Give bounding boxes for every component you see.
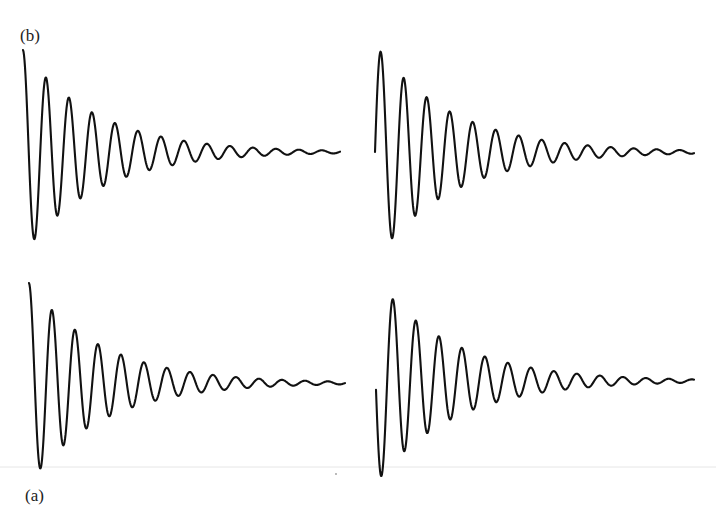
waveform-top-right bbox=[375, 52, 694, 239]
waveform-canvas bbox=[0, 0, 716, 525]
panel-label-a: (a) bbox=[25, 487, 44, 504]
waveform-bottom-right bbox=[376, 299, 694, 476]
waveform-top-left bbox=[23, 50, 340, 239]
waveform-bottom-left bbox=[29, 283, 345, 468]
scan-artifact-speck bbox=[335, 473, 337, 475]
panel-label-b: (b) bbox=[20, 27, 40, 44]
damped-oscillation-figure: (b) (a) bbox=[0, 0, 716, 525]
